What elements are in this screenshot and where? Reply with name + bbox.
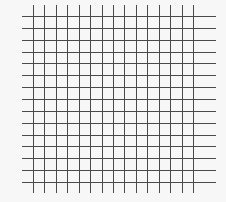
grid-diagram bbox=[0, 0, 226, 202]
